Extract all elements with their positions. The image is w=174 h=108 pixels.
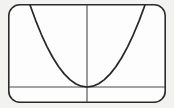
figure-root: y = x^2 xyxy=(0,0,174,108)
parabola-plot-figure xyxy=(0,0,174,108)
